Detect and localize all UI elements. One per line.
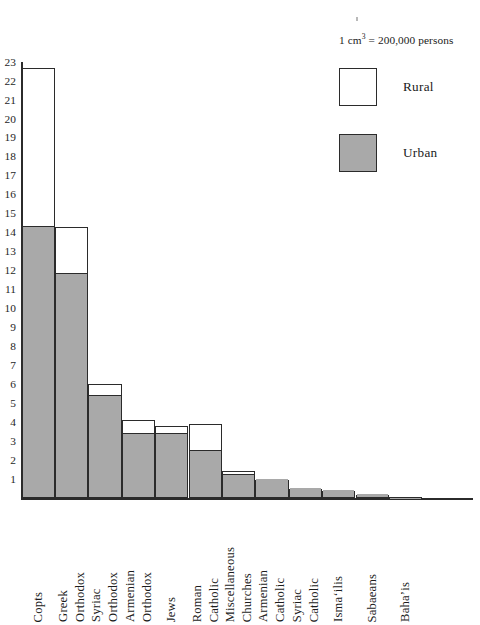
bar-syriac-orthodox	[88, 384, 121, 498]
x-axis-label-jews: Jews	[155, 510, 188, 622]
x-axis-label-text: RomanCatholic	[189, 578, 222, 622]
bar-segment-urban	[56, 273, 87, 497]
bar-armenian-catholic	[255, 480, 288, 498]
bar-sabaeans	[356, 495, 389, 498]
x-axis-label-line: Isma‘ilis	[330, 576, 347, 622]
bar-segment-urban	[156, 433, 187, 497]
x-axis-label-line: Sabaeans	[364, 574, 381, 622]
bar-armenian-orthodox	[122, 420, 155, 498]
x-axis-label-line: Baha’is	[397, 582, 414, 622]
y-axis-tick-labels: 2322212019181716151413121110987654321	[0, 0, 16, 625]
x-axis-label-syriac-orthodox: SyriacOrthodox	[88, 510, 121, 622]
bar-segment-urban	[256, 479, 287, 497]
x-axis-label-greek-orthodox: GreekOrthodox	[55, 510, 88, 622]
bar-copts	[22, 68, 55, 498]
bar-baha-is	[389, 497, 422, 499]
y-axis-tick-label: 7	[0, 360, 16, 371]
y-axis-tick-label: 1	[0, 474, 16, 485]
y-axis-tick-label: 13	[0, 246, 16, 257]
bar-segment-rural	[23, 69, 54, 228]
y-axis-tick-label: 19	[0, 132, 16, 143]
bar-isma-ilis	[322, 491, 355, 498]
x-axis-label-text: Sabaeans	[364, 574, 381, 622]
x-axis-label-line: Orthodox	[138, 570, 155, 622]
bar-roman-catholic	[189, 424, 222, 498]
y-axis-tick-label: 2	[0, 455, 16, 466]
x-axis-label-text: Isma‘ilis	[330, 576, 347, 622]
bar-chart: 2322212019181716151413121110987654321 Co…	[0, 0, 480, 625]
y-axis-tick-label: 12	[0, 265, 16, 276]
x-axis-label-line: Orthodox	[72, 572, 89, 622]
x-axis-label-text: ArmenianCatholic	[255, 570, 288, 622]
x-axis-label-isma-ilis: Isma‘ilis	[322, 510, 355, 622]
y-axis-tick-label: 23	[0, 57, 16, 68]
x-axis-label-text: SyriacOrthodox	[88, 572, 121, 622]
x-axis-label-text: ArmenianOrthodox	[122, 570, 155, 622]
bar-greek-orthodox	[55, 227, 88, 498]
y-axis-tick-label: 16	[0, 189, 16, 200]
y-axis-tick-label: 21	[0, 95, 16, 106]
y-axis-tick-label: 4	[0, 417, 16, 428]
x-axis-label-baha-is: Baha’is	[389, 510, 422, 622]
y-axis-tick-label: 11	[0, 284, 16, 295]
bar-segment-urban	[357, 494, 388, 497]
x-axis-label-miscellaneous-churches: MiscellaneousChurches	[222, 510, 255, 622]
y-axis-tick-label: 9	[0, 322, 16, 333]
x-axis-label-armenian-catholic: ArmenianCatholic	[255, 510, 288, 622]
bar-segment-rural	[190, 425, 221, 452]
bar-segment-urban	[323, 490, 354, 497]
y-axis-tick-label: 20	[0, 114, 16, 125]
bar-segment-urban	[89, 395, 120, 497]
bar-jews	[155, 426, 188, 498]
bar-segment-urban	[190, 450, 221, 497]
bar-miscellaneous-churches	[222, 471, 255, 498]
bar-segment-urban	[223, 474, 254, 497]
x-axis-label-text: SyriacCatholic	[289, 578, 322, 622]
x-axis-label-line: Catholic	[272, 570, 289, 622]
y-axis-tick-label: 3	[0, 436, 16, 447]
x-axis-label-text: GreekOrthodox	[55, 572, 88, 622]
x-axis-label-line: Armenian	[255, 570, 272, 622]
x-axis-label-line: Roman	[189, 578, 206, 622]
x-axis-label-line: Miscellaneous	[222, 547, 239, 622]
x-axis-label-sabaeans: Sabaeans	[356, 510, 389, 622]
y-axis-tick-label: 15	[0, 208, 16, 219]
y-axis-tick-label: 5	[0, 398, 16, 409]
x-axis-label-line: Catholic	[305, 578, 322, 622]
x-axis-label-armenian-orthodox: ArmenianOrthodox	[122, 510, 155, 622]
bar-segment-urban	[390, 498, 421, 499]
y-axis-tick-label: 6	[0, 379, 16, 390]
y-axis-tick-label: 14	[0, 227, 16, 238]
x-axis-label-line: Syriac	[88, 572, 105, 622]
x-axis-label-text: Copts	[30, 592, 47, 622]
x-axis-label-line: Jews	[163, 597, 180, 622]
x-axis-label-line: Orthodox	[105, 572, 122, 622]
x-axis-label-copts: Copts	[22, 510, 55, 622]
bar-syriac-catholic	[289, 489, 322, 498]
bar-segment-urban	[290, 488, 321, 497]
y-axis-tick-label: 22	[0, 76, 16, 87]
x-axis-label-line: Syriac	[289, 578, 306, 622]
x-axis-label-line: Greek	[55, 572, 72, 622]
bar-segment-urban	[23, 226, 54, 497]
y-axis-tick-label: 17	[0, 170, 16, 181]
y-axis-tick-label: 18	[0, 151, 16, 162]
bar-segment-rural	[56, 228, 87, 275]
x-axis-label-syriac-catholic: SyriacCatholic	[289, 510, 322, 622]
x-axis-label-line: Armenian	[122, 570, 139, 622]
x-axis-label-line: Copts	[30, 592, 47, 622]
x-axis-label-line: Catholic	[205, 578, 222, 622]
x-axis-label-text: Baha’is	[397, 582, 414, 622]
x-axis-label-text: Jews	[163, 597, 180, 622]
x-axis-label-line: Churches	[239, 547, 256, 622]
y-axis-tick-label: 10	[0, 303, 16, 314]
x-axis-label-text: MiscellaneousChurches	[222, 547, 255, 622]
x-axis-label-roman-catholic: RomanCatholic	[189, 510, 222, 622]
bar-segment-urban	[123, 433, 154, 497]
y-axis-tick-label: 8	[0, 341, 16, 352]
